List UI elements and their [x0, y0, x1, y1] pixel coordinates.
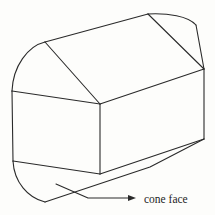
- top-face: [45, 14, 204, 104]
- front-face: [12, 91, 100, 174]
- left-curved-end: [12, 42, 45, 202]
- right-curved-end: [148, 14, 204, 139]
- arrowhead-icon: [128, 195, 136, 201]
- cone-face-label: cone face: [144, 193, 188, 205]
- solid-diagram: cone face: [0, 0, 215, 215]
- cone-face-leader-arrow: [56, 184, 136, 201]
